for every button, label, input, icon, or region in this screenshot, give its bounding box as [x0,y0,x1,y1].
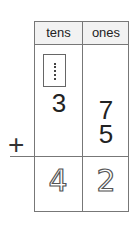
dotted-one-tracing [54,63,56,80]
sum-ones-tracing: 2 [91,166,121,196]
header-tens: tens [35,22,82,44]
plus-sign: + [8,131,24,159]
sum-line [10,156,129,157]
place-value-grid: tens ones 3 7 5 4 2 [34,21,129,212]
sum-tens-tracing: 4 [43,166,73,196]
carry-box-tens[interactable] [43,54,66,87]
addend2-ones: 5 [91,121,121,147]
column-divider [82,22,83,211]
header-ones: ones [83,22,129,44]
addend1-tens: 3 [44,90,74,116]
